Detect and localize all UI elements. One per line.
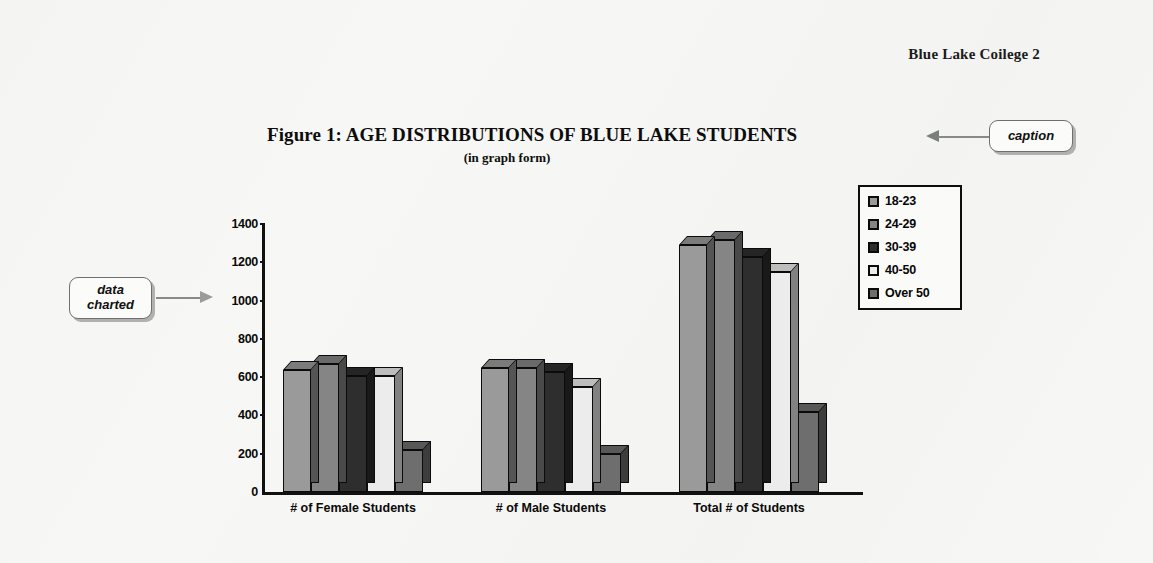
bar-group <box>679 224 847 492</box>
caption-connector-line <box>938 136 989 138</box>
x-axis-tick-label: # of Male Students <box>481 501 621 515</box>
y-axis-tick-label: 800 <box>238 332 258 346</box>
bar-side-face <box>311 361 319 483</box>
bar-front-face <box>481 368 509 492</box>
bar-front-face <box>679 245 707 492</box>
y-axis-tick-mark <box>260 376 265 378</box>
y-axis-tick-mark <box>260 338 265 340</box>
bar-side-face <box>819 403 827 483</box>
legend-item: 24-29 <box>868 217 954 231</box>
bar-front-face <box>283 370 311 492</box>
x-axis-tick-label: # of Female Students <box>283 501 423 515</box>
figure-title: Figure 1: AGE DISTRIBUTIONS OF BLUE LAKE… <box>267 124 747 146</box>
data-charted-connector-line <box>156 297 201 299</box>
x-axis-tick-label: Total # of Students <box>679 501 819 515</box>
y-axis-tick-label: 200 <box>238 447 258 461</box>
bar-side-face <box>707 236 715 483</box>
y-axis-tick-label: 1400 <box>231 217 258 231</box>
bar-side-face <box>537 359 545 483</box>
y-axis-tick-mark <box>260 453 265 455</box>
y-axis-tick-mark <box>260 300 265 302</box>
y-axis-tick-label: 400 <box>238 408 258 422</box>
bar-chart: 0200400600800100012001400 # of Female St… <box>210 180 900 525</box>
plot-area: 0200400600800100012001400 # of Female St… <box>262 224 863 495</box>
callout-caption: caption <box>989 120 1073 152</box>
y-axis-tick-label: 0 <box>251 485 258 499</box>
legend-label: 24-29 <box>885 217 916 231</box>
bar-group <box>283 224 451 492</box>
bar-side-face <box>367 367 375 483</box>
callout-caption-label: caption <box>1008 129 1054 144</box>
legend-item: Over 50 <box>868 286 954 300</box>
bar-side-face <box>339 355 347 483</box>
bar-side-face <box>791 263 799 483</box>
legend-swatch-icon <box>868 288 879 299</box>
legend-swatch-icon <box>868 265 879 276</box>
callout-data-charted: data charted <box>69 277 152 319</box>
bar-side-face <box>735 231 743 483</box>
bar-side-face <box>395 367 403 483</box>
running-head: Blue Lake Coilege 2 <box>908 46 1040 63</box>
legend-label: Over 50 <box>885 286 929 300</box>
callout-data-charted-label: data charted <box>87 283 134 313</box>
legend-item: 18-23 <box>868 194 954 208</box>
figure-subtitle: (in graph form) <box>267 150 747 166</box>
bar-group <box>481 224 649 492</box>
legend-item: 40-50 <box>868 263 954 277</box>
legend-label: 30-39 <box>885 240 916 254</box>
y-axis-tick-mark <box>260 414 265 416</box>
y-axis-tick-mark <box>260 223 265 225</box>
legend-swatch-icon <box>868 219 879 230</box>
bar-side-face <box>565 363 573 483</box>
legend-swatch-icon <box>868 196 879 207</box>
legend-label: 40-50 <box>885 263 916 277</box>
chart-legend: 18-2324-2930-3940-50Over 50 <box>858 185 962 310</box>
legend-swatch-icon <box>868 242 879 253</box>
bar-side-face <box>593 378 601 483</box>
bar-side-face <box>763 248 771 483</box>
legend-label: 18-23 <box>885 194 916 208</box>
y-axis-tick-label: 600 <box>238 370 258 384</box>
bar-side-face <box>509 359 517 483</box>
y-axis-tick-mark <box>260 261 265 263</box>
y-axis-tick-label: 1000 <box>231 294 258 308</box>
y-axis-tick-label: 1200 <box>231 255 258 269</box>
legend-item: 30-39 <box>868 240 954 254</box>
